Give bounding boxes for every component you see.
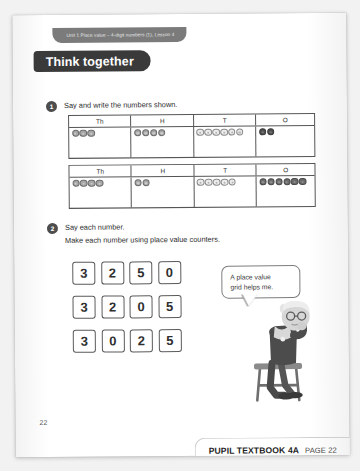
place-value-counter (158, 129, 165, 136)
digit-box: 0 (101, 329, 124, 352)
place-value-header-th: Th (69, 115, 132, 126)
place-value-cell-h (132, 177, 195, 207)
digit-box: 0 (129, 295, 152, 318)
place-value-cell-o (257, 126, 315, 156)
place-value-table-1-body (69, 126, 314, 158)
digit-row-1: 3250 (72, 261, 181, 285)
question-2-number: 2 (47, 222, 58, 233)
place-value-counter (134, 129, 141, 136)
place-value-cell-th (69, 127, 132, 157)
question-1-prompt: Say and write the numbers shown. (64, 99, 177, 111)
place-value-counter (87, 130, 94, 137)
place-value-counter (220, 129, 227, 136)
place-value-counter (267, 178, 274, 185)
place-value-header-o: O (256, 114, 314, 125)
place-value-counter (275, 178, 282, 185)
question-2-prompt: Say each number. (65, 221, 125, 233)
footer-book-title: PUPIL TEXTBOOK 4A (209, 445, 299, 456)
place-value-counter (88, 180, 95, 187)
place-value-header-t: T (194, 164, 257, 175)
textbook-page-sheet: Unit 1 Place value – 4-digit numbers (1)… (12, 13, 349, 458)
screenshot-root: Unit 1 Place value – 4-digit numbers (1)… (0, 0, 360, 471)
question-1: 1 Say and write the numbers shown. (46, 99, 177, 112)
place-value-counter (299, 178, 306, 185)
digit-box: 3 (72, 262, 95, 285)
digit-box: 5 (158, 329, 181, 352)
question-1-number: 1 (46, 100, 57, 111)
place-value-cell-t (194, 126, 257, 156)
question-2-subprompt: Make each number using place value count… (65, 235, 220, 245)
place-value-counter (72, 180, 79, 187)
place-value-counter (150, 129, 157, 136)
footer-tab: PUPIL TEXTBOOK 4A PAGE 22 (195, 437, 350, 458)
place-value-table-2: ThHTO (68, 163, 315, 209)
place-value-header-th: Th (69, 165, 132, 176)
place-value-counter (229, 179, 236, 186)
place-value-counter (204, 129, 211, 136)
place-value-counter (80, 130, 87, 137)
speech-bubble-line-2: grid helps me. (230, 282, 292, 292)
speech-bubble-line-1: A place value (230, 272, 292, 282)
place-value-counter (236, 129, 243, 136)
place-value-counter (197, 179, 204, 186)
place-value-header-t: T (194, 114, 257, 125)
digit-row-2: 3205 (72, 295, 181, 319)
footer-page-label: PAGE 22 (305, 445, 337, 454)
digit-box: 2 (101, 261, 124, 284)
place-value-cell-t (194, 176, 257, 206)
digit-box: 5 (158, 295, 181, 318)
unit-strip-label: Unit 1 Place value – 4-digit numbers (1)… (66, 32, 174, 38)
speech-bubble: A place value grid helps me. (221, 265, 300, 299)
place-value-counter (221, 179, 228, 186)
page-number: 22 (39, 419, 47, 426)
place-value-counter (212, 129, 219, 136)
digit-box: 5 (129, 261, 152, 284)
question-2: 2 Say each number. (47, 221, 125, 233)
place-value-counter (135, 179, 142, 186)
place-value-table-1: ThHTO (68, 113, 315, 159)
place-value-table-2-body (70, 176, 315, 208)
place-value-header-h: H (132, 165, 195, 176)
place-value-counter (96, 180, 103, 187)
place-value-cell-th (70, 177, 133, 207)
digit-box: 0 (158, 261, 181, 284)
place-value-cell-o (257, 176, 315, 206)
place-value-counter (291, 178, 298, 185)
character-svg (240, 299, 333, 404)
place-value-counter (142, 179, 149, 186)
digit-box: 3 (72, 296, 95, 319)
place-value-counter (72, 130, 79, 137)
think-together-banner: Think together (34, 50, 151, 72)
place-value-counter (259, 178, 266, 185)
place-value-counter (205, 179, 212, 186)
banner-title: Think together (46, 54, 134, 69)
digit-box: 2 (101, 295, 124, 318)
place-value-counter (267, 128, 274, 135)
place-value-header-h: H (132, 115, 195, 126)
place-value-counter (80, 180, 87, 187)
place-value-cell-h (132, 127, 195, 157)
place-value-counter (197, 129, 204, 136)
digit-box: 3 (73, 330, 96, 353)
place-value-counter (142, 129, 149, 136)
place-value-counter (213, 179, 220, 186)
place-value-header-o: O (257, 164, 315, 175)
unit-strip: Unit 1 Place value – 4-digit numbers (1)… (52, 27, 186, 43)
place-value-counter (259, 128, 266, 135)
digit-row-3: 3025 (73, 329, 182, 353)
place-value-counter (283, 178, 290, 185)
character-illustration (240, 299, 333, 404)
digit-box: 2 (130, 329, 153, 352)
page-content: Unit 1 Place value – 4-digit numbers (1)… (12, 13, 349, 458)
place-value-counter (228, 129, 235, 136)
